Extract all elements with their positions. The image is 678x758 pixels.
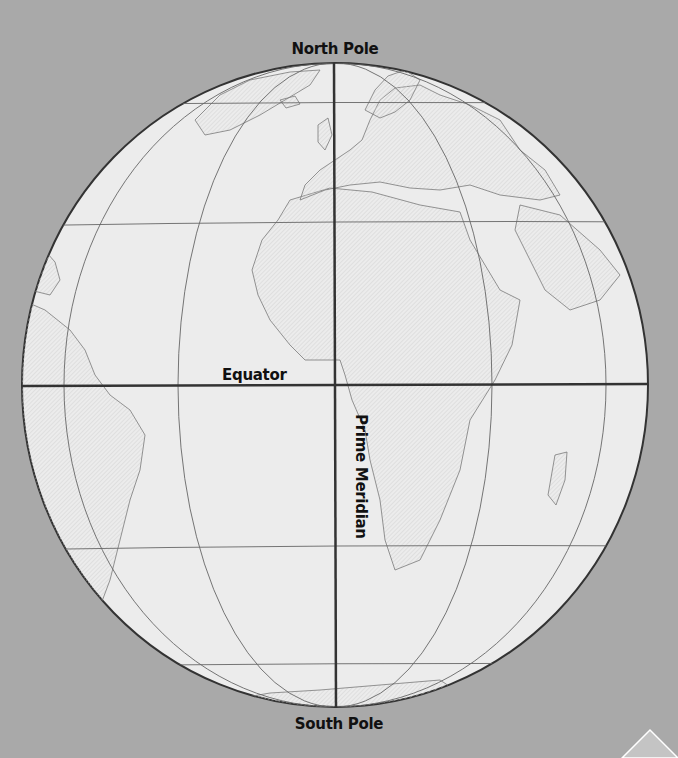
prime-meridian-label: Prime Meridian bbox=[352, 414, 370, 539]
equator-label: Equator bbox=[222, 366, 287, 384]
corner-arrow-decoration bbox=[622, 730, 678, 758]
south-pole-label: South Pole bbox=[0, 715, 678, 733]
north-pole-label: North Pole bbox=[0, 40, 670, 58]
globe-map bbox=[0, 0, 678, 758]
